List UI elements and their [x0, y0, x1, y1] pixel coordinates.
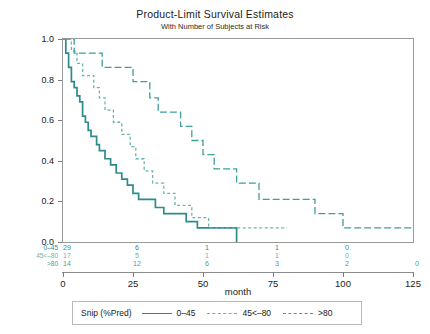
at-risk-value: 1 [205, 244, 209, 251]
at-risk-value: 5 [135, 252, 139, 259]
at-risk-value: 14 [63, 260, 71, 267]
at-risk-value: 1 [275, 252, 279, 259]
survival-curves [63, 39, 413, 242]
at-risk-row-label: >80 [47, 260, 58, 267]
legend-label: 0–45 [177, 308, 196, 318]
at-risk-value: 6 [205, 260, 209, 267]
legend-swatch-0-45 [142, 313, 172, 314]
at-risk-value: 29 [63, 244, 71, 251]
x-tick-mark [343, 272, 344, 277]
legend: Snip (%Pred) 0–4545<–80>80 [72, 301, 362, 325]
at-risk-value: 12 [133, 260, 141, 267]
plot-area [62, 38, 414, 243]
y-tick-label: 1.0 [41, 34, 54, 44]
at-risk-value: 1 [275, 244, 279, 251]
at-risk-value: 6 [135, 244, 139, 251]
legend-item-0-45[interactable]: 0–45 [142, 308, 196, 318]
x-tick-mark [203, 272, 204, 277]
legend-items: 0–4545<–80>80 [142, 308, 333, 318]
legend-swatch-45<-80 [207, 313, 237, 314]
at-risk-value: 0 [415, 260, 419, 267]
survival-curve-45<-80 [63, 39, 287, 228]
x-tick-mark [133, 272, 134, 277]
x-axis-label: month [62, 286, 414, 297]
legend-item->80[interactable]: >80 [283, 308, 332, 318]
at-risk-value: 3 [275, 260, 279, 267]
y-tick-label: 0.6 [41, 115, 54, 125]
legend-swatch->80 [283, 313, 313, 314]
x-tick-mark [413, 272, 414, 277]
x-axis-line [62, 272, 414, 273]
at-risk-value: 0 [345, 244, 349, 251]
legend-item-45<-80[interactable]: 45<–80 [207, 308, 271, 318]
x-tick-mark [63, 272, 64, 277]
chart-title: Product-Limit Survival Estimates [0, 8, 430, 20]
at-risk-row-label: 45<–80 [36, 252, 58, 259]
legend-label: 45<–80 [242, 308, 271, 318]
at-risk-value: 2 [345, 260, 349, 267]
at-risk-value: 1 [205, 252, 209, 259]
chart-subtitle: With Number of Subjects at Risk [0, 22, 430, 31]
x-tick-mark [273, 272, 274, 277]
survival-chart-figure: Product-Limit Survival Estimates With Nu… [0, 0, 430, 334]
y-tick-label: 0.2 [41, 196, 54, 206]
at-risk-row-label: 0–45 [44, 244, 58, 251]
y-tick-label: 0.8 [41, 75, 54, 85]
survival-curve-0-45 [63, 39, 237, 242]
at-risk-value: 0 [345, 252, 349, 259]
survival-curve->80 [63, 39, 413, 228]
legend-label: >80 [318, 308, 332, 318]
y-tick-label: 0.4 [41, 156, 54, 166]
legend-title: Snip (%Pred) [81, 308, 132, 318]
at-risk-table: 0–4529611045<–80175110>8014126320 [0, 243, 430, 269]
at-risk-value: 17 [63, 252, 71, 259]
